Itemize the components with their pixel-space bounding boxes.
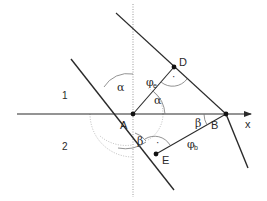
- point-label-a: A: [120, 119, 128, 131]
- region-label-1: 1: [62, 90, 68, 101]
- point-label-e: E: [162, 154, 169, 166]
- axis-label-x: x: [245, 118, 251, 130]
- angle-beta-right: β: [195, 117, 201, 130]
- beta-arc-right: [204, 114, 207, 125]
- angle-beta-left: β: [137, 135, 143, 148]
- point-e: [154, 152, 159, 157]
- angle-phi-e-sub: e: [153, 82, 157, 89]
- wavefront-line-d: [116, 13, 226, 114]
- point-d: [172, 65, 177, 70]
- point-label-b: B: [211, 119, 218, 131]
- angle-phi-b-sub: b: [194, 144, 198, 151]
- point-label-d: D: [179, 56, 187, 68]
- angle-alpha-mid: α: [154, 94, 162, 107]
- right-angle-dot-d: ·: [172, 71, 175, 82]
- point-b: [224, 112, 229, 117]
- angle-alpha-top: α: [117, 81, 125, 94]
- point-a: [131, 112, 136, 117]
- region-label-2: 2: [62, 141, 68, 152]
- dotted-arc-e: [100, 136, 132, 145]
- right-angle-dot-e: ·: [156, 137, 159, 148]
- wave-reflection-diagram: 1 2 A B D E x α α β β φ e φ b · ·: [0, 0, 267, 201]
